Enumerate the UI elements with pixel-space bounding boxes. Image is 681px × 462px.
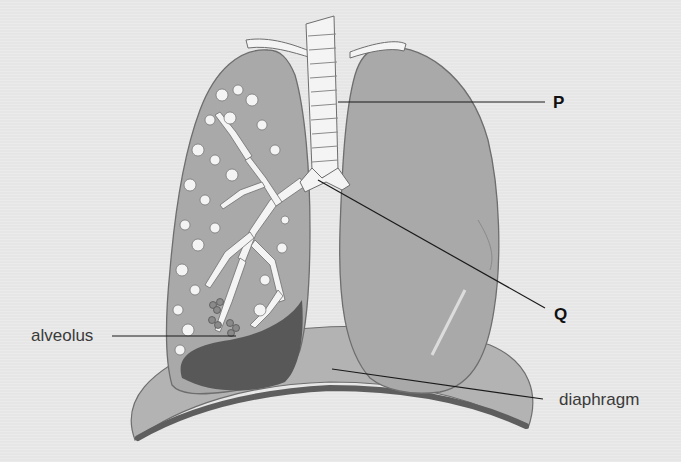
label-q: Q (554, 306, 567, 323)
label-diaphragm: diaphragm (559, 391, 639, 408)
label-p: P (553, 94, 564, 111)
label-alveolus: alveolus (31, 327, 93, 344)
left-lung (340, 47, 499, 393)
